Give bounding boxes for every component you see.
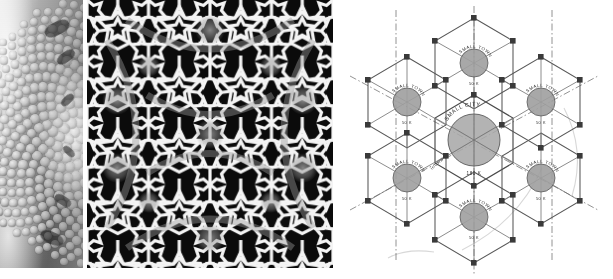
floret [28, 54, 37, 63]
floret [25, 178, 34, 187]
floret [37, 92, 47, 102]
girih-svg [87, 0, 333, 268]
floret [0, 39, 7, 47]
floret [35, 246, 43, 254]
place-northeast[interactable]: SMALL TOWN 50 K [524, 83, 560, 125]
floret [78, 199, 83, 208]
floret [39, 111, 49, 121]
floret [0, 56, 8, 64]
place-south[interactable]: SMALL TOWN 50 K [457, 198, 493, 240]
floret [66, 242, 74, 250]
floret [0, 79, 6, 87]
three-panel-figure: SMALL TOWN 50 K SMALL TOWN 50 K [0, 0, 613, 279]
floret [19, 56, 28, 65]
floret [33, 215, 42, 224]
floret [27, 196, 36, 205]
floret [9, 82, 18, 91]
floret [20, 21, 28, 29]
floret [28, 237, 36, 245]
place-population-south: 50 K [469, 236, 479, 240]
floret [12, 209, 20, 217]
floret [18, 38, 26, 46]
floret [9, 199, 17, 207]
floret [9, 160, 18, 169]
place-southwest[interactable]: SMALL TOWN 50 K [390, 159, 426, 201]
place-population-southeast: 50 K [536, 197, 546, 201]
floret [59, 76, 69, 86]
floret [63, 173, 73, 183]
floret [17, 78, 26, 87]
floret [36, 43, 45, 52]
floret [51, 251, 59, 259]
floret [53, 182, 63, 192]
floret [50, 73, 60, 83]
place-population-north: 50 K [469, 82, 479, 86]
floret [38, 82, 48, 92]
floret [54, 172, 64, 182]
floret [5, 74, 14, 83]
floret [65, 9, 73, 17]
floret [27, 45, 36, 54]
floret [70, 1, 78, 9]
floret [0, 136, 7, 145]
floret [1, 198, 9, 206]
panel-central-place-diagram: SMALL TOWN 50 K SMALL TOWN 50 K [336, 0, 613, 279]
floret [64, 36, 73, 45]
floret [16, 219, 24, 227]
place-northwest[interactable]: SMALL TOWN 50 K [390, 83, 426, 125]
place-population-southwest: 50 K [402, 197, 412, 201]
floret [0, 219, 7, 227]
floret [28, 27, 36, 35]
floret [80, 4, 83, 12]
floret [0, 115, 9, 124]
floret [28, 94, 37, 103]
floret [11, 60, 19, 68]
floret [17, 169, 26, 178]
floret [9, 51, 17, 59]
floret [44, 8, 52, 16]
floret [3, 148, 12, 157]
place-southeast[interactable]: SMALL TOWN 50 K [524, 159, 560, 201]
floret [13, 69, 22, 78]
panel-islamic-star-pattern [87, 0, 333, 268]
floret [0, 178, 7, 186]
floret [18, 198, 27, 207]
floret [12, 151, 21, 160]
floret [59, 0, 67, 8]
floret [76, 30, 83, 39]
floret [44, 188, 53, 197]
floret [0, 101, 9, 110]
floret [36, 193, 45, 202]
floret [18, 160, 27, 169]
floret [55, 64, 64, 73]
floret [56, 85, 66, 95]
floret [42, 120, 52, 130]
floret [55, 8, 63, 16]
floret [37, 102, 47, 112]
floret [8, 219, 16, 227]
floret [45, 43, 54, 52]
floret [22, 228, 30, 236]
floret [41, 211, 50, 220]
floret [2, 87, 11, 96]
floret [33, 73, 42, 82]
floret [54, 44, 63, 53]
floret [42, 72, 51, 81]
central-city-population: 180 K [466, 171, 481, 176]
floret [77, 259, 83, 267]
floret [16, 179, 25, 188]
floret [38, 202, 47, 211]
floret [60, 258, 68, 266]
floret [27, 36, 35, 44]
floret [59, 247, 67, 255]
floret [39, 62, 48, 71]
floret [22, 86, 31, 95]
floret [35, 184, 44, 193]
floret [4, 209, 12, 217]
floret [29, 206, 38, 215]
floret [7, 179, 16, 188]
central-place-svg: SMALL TOWN 50 K SMALL TOWN 50 K [336, 0, 613, 279]
floret [13, 229, 21, 237]
place-north[interactable]: SMALL TOWN 50 K [457, 44, 493, 86]
panel-flower-head-photo [0, 0, 83, 268]
